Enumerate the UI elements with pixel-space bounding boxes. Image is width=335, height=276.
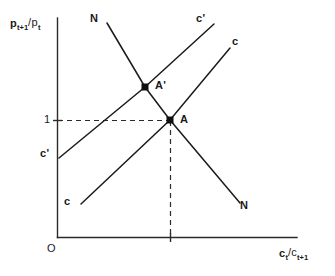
y-axis-title: pt+1/pt (10, 18, 40, 29)
curve-label-c-prime-top: c' (196, 13, 205, 24)
curve-label-N-top: N (90, 13, 98, 24)
curve-N (107, 23, 240, 203)
curve-c (81, 48, 230, 204)
y-axis-title-numerator-subscript: t+1 (17, 23, 28, 32)
origin-label: O (47, 243, 56, 254)
y-axis-tick-label-1: 1 (44, 114, 50, 125)
x-axis-title-denominator: /c (288, 246, 297, 258)
point-marker-A (167, 117, 174, 124)
curve-c-prime (59, 24, 214, 158)
point-label-A-prime: A' (155, 80, 166, 91)
x-axis-title: ct/ct+1 (279, 248, 308, 259)
figure-root: pt+1/pt ct/ct+1 1 O N c' c c' c N A A' (0, 0, 335, 276)
curve-label-c-prime-bottom: c' (40, 148, 49, 159)
diagram-canvas (0, 0, 335, 276)
curve-label-c-bottom: c (64, 196, 70, 207)
point-label-A: A (180, 114, 188, 125)
curve-label-N-bottom: N (240, 200, 248, 211)
curve-label-c-top: c (232, 36, 238, 47)
y-axis-title-numerator: p (10, 17, 17, 29)
point-marker-A-prime (142, 84, 149, 91)
y-axis-title-denominator: /p (28, 16, 38, 28)
x-axis-title-denominator-subscript: t+1 (297, 253, 308, 262)
